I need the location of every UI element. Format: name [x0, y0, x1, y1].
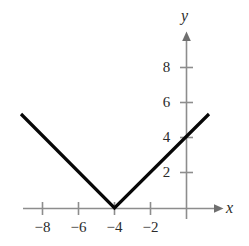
x-tick-label-minus-4: −4 — [101, 220, 128, 235]
graph-figure: −8 −6 −4 −2 8 6 4 2 x y — [0, 0, 249, 246]
absolute-value-curve — [21, 114, 209, 208]
y-tick-label-8: 8 — [159, 60, 174, 75]
coordinate-plane-svg — [0, 0, 249, 246]
y-tick-label-4: 4 — [159, 130, 174, 145]
y-tick-label-6: 6 — [159, 95, 174, 110]
x-tick-label-minus-8: −8 — [29, 220, 56, 235]
y-tick-label-2: 2 — [159, 165, 174, 180]
y-axis-label: y — [181, 8, 188, 24]
y-axis-arrow-icon — [182, 32, 191, 42]
x-tick-label-minus-2: −2 — [137, 220, 164, 235]
x-tick-label-minus-6: −6 — [65, 220, 92, 235]
x-axis-arrow-icon — [214, 204, 224, 213]
x-axis-label: x — [226, 200, 233, 216]
